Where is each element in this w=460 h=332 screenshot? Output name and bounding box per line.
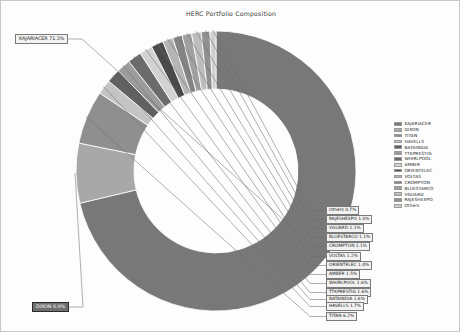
pie-data-label[interactable]: ORIENTELEC 1.4% — [326, 261, 372, 270]
legend-swatch-icon — [394, 192, 402, 196]
pie-data-label[interactable]: KAJARIACER 71.3% — [15, 34, 68, 44]
legend[interactable]: KAJARIACERDIXONTITANHAVELLSBATAINDIATTKP… — [394, 121, 460, 209]
pie-data-label[interactable]: BLUESTARCO 1.1% — [326, 233, 373, 242]
legend-item-label: TITAN — [404, 133, 417, 138]
pie-data-label[interactable]: DIXON 6.9% — [32, 302, 69, 312]
legend-item-label: KAJARIACER — [404, 121, 431, 126]
legend-item-label: AMBER — [404, 162, 420, 167]
pie-data-label[interactable]: HAVELLS 1.7% — [326, 302, 364, 311]
legend-swatch-icon — [394, 128, 402, 132]
legend-item-label: ORIENTELEC — [404, 168, 432, 173]
legend-item-label: BATAINDIA — [404, 145, 428, 150]
legend-swatch-icon — [394, 198, 402, 202]
legend-item-label: CROMPTON — [404, 180, 430, 185]
legend-swatch-icon — [394, 204, 402, 208]
legend-item[interactable]: Others — [394, 203, 460, 209]
legend-swatch-icon — [394, 157, 402, 161]
legend-swatch-icon — [394, 122, 402, 126]
legend-swatch-icon — [394, 181, 402, 185]
legend-swatch-icon — [394, 169, 402, 173]
legend-item-label: RAJESHEXPO — [404, 197, 432, 202]
donut-chart[interactable] — [61, 21, 371, 321]
pie-data-label[interactable]: RAJESHEXPO 1.0% — [326, 215, 372, 224]
legend-item-label: VGUARD — [404, 192, 423, 197]
legend-item-label: HAVELLS — [404, 139, 424, 144]
legend-swatch-icon — [394, 151, 402, 155]
legend-item-label: BLUESTARCO — [404, 186, 433, 191]
legend-swatch-icon — [394, 140, 402, 144]
pie-data-label[interactable]: VOLTAS 1.2% — [326, 252, 361, 261]
legend-swatch-icon — [394, 163, 402, 167]
legend-swatch-icon — [394, 175, 402, 179]
donut-slices[interactable] — [61, 21, 371, 321]
pie-data-label[interactable]: CROMPTON 1.1% — [326, 242, 370, 251]
legend-swatch-icon — [394, 186, 402, 190]
chart-figure: HERC Portfolio Composition KAJARIACER 71… — [0, 0, 460, 332]
legend-swatch-icon — [394, 145, 402, 149]
pie-data-label[interactable]: VGUARD 1.1% — [326, 224, 364, 233]
page-title: HERC Portfolio Composition — [1, 10, 460, 17]
pie-data-label[interactable]: AMBER 1.5% — [326, 270, 360, 279]
legend-swatch-icon — [394, 134, 402, 138]
pie-data-label[interactable]: WHIRLPOOL 1.6% — [326, 279, 371, 288]
legend-item-label: Others — [404, 203, 419, 208]
legend-item-label: DIXON — [404, 127, 418, 132]
legend-item-label: TTKPRESTIG — [404, 151, 431, 156]
pie-data-label[interactable]: Others 0.7% — [326, 206, 359, 215]
legend-item-label: VOLTAS — [404, 174, 421, 179]
pie-data-label[interactable]: TITAN 6.2% — [326, 312, 357, 321]
legend-item-label: WHIRLPOOL — [404, 156, 431, 161]
